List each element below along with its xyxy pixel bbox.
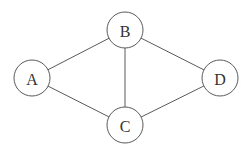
edge-b-d <box>141 38 204 70</box>
node-label: C <box>120 118 131 135</box>
node-c: C <box>107 107 143 143</box>
edge-a-c <box>48 86 109 117</box>
nodes-layer: ABCD <box>14 12 238 143</box>
edges-layer <box>48 38 204 117</box>
edge-a-b <box>48 38 109 69</box>
node-label: A <box>26 71 38 88</box>
node-a: A <box>14 60 50 96</box>
graph-diagram: ABCD <box>0 0 247 146</box>
edge-c-d <box>141 86 204 117</box>
node-label: B <box>120 23 131 40</box>
node-d: D <box>202 60 238 96</box>
node-b: B <box>107 12 143 48</box>
node-label: D <box>214 71 226 88</box>
